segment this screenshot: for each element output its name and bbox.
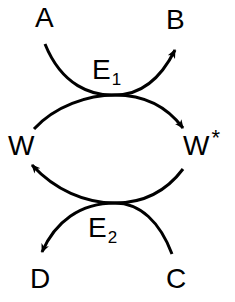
enzyme-e2-subscript: 2 (108, 228, 117, 247)
node-w-label: W (8, 130, 34, 161)
node-w-star-superscript: * (211, 125, 220, 150)
node-c-label: C (166, 263, 186, 294)
node-d-label: D (30, 263, 50, 294)
arc-w-to-wstar (34, 95, 183, 129)
node-a-label: A (35, 2, 54, 33)
node-w: W (8, 132, 34, 160)
node-w-star: W* (183, 132, 220, 160)
enzyme-e1-subscript: 1 (112, 70, 121, 89)
node-c: C (166, 265, 186, 293)
enzyme-e1-label: E (92, 54, 111, 85)
arc-wstar-to-w (32, 165, 183, 203)
enzyme-e2-label: E (88, 212, 107, 243)
node-b-label: B (166, 4, 185, 35)
node-d: D (30, 265, 50, 293)
node-b: B (166, 6, 185, 34)
node-w-star-label: W (183, 130, 209, 161)
enzyme-e1: E1 (92, 56, 121, 84)
node-a: A (35, 4, 54, 32)
enzyme-e2: E2 (88, 214, 117, 242)
